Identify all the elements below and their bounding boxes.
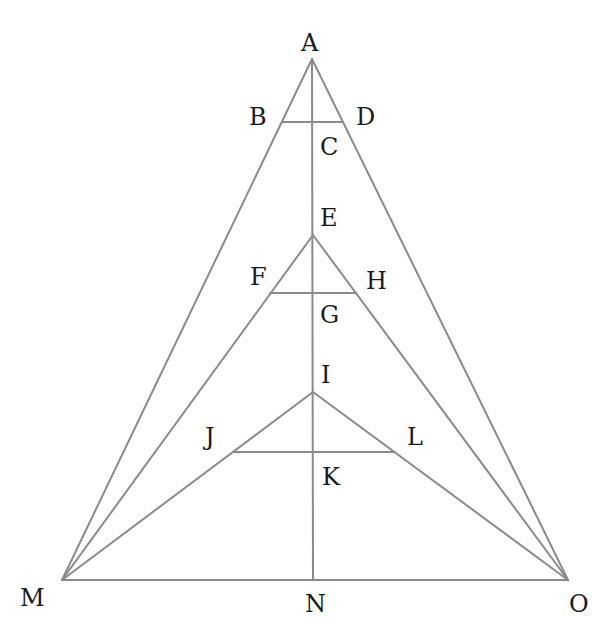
point-label-b: B [249,103,267,131]
point-label-c: C [320,133,338,161]
point-label-h: H [366,267,387,295]
diagram-segments [62,59,568,580]
segment-ao [312,59,568,580]
point-label-l: L [407,423,423,451]
point-label-m: M [20,584,45,612]
point-label-n: N [305,590,326,618]
segment-im [62,392,313,580]
point-label-i: I [321,361,330,389]
point-label-a: A [300,29,319,57]
segment-am [62,59,312,580]
point-label-e: E [320,204,338,232]
point-label-d: D [356,103,375,131]
segment-an [312,59,313,580]
point-label-k: K [322,463,341,491]
point-label-f: F [250,263,267,291]
geometry-diagram: ABCDEFGHIJKLMNO [0,0,610,639]
segment-io [313,392,568,580]
point-label-j: J [202,423,215,451]
segment-eo [313,235,568,580]
point-label-g: G [320,301,339,329]
segment-em [62,235,313,580]
diagram-labels: ABCDEFGHIJKLMNO [20,29,589,618]
point-label-o: O [569,590,589,618]
